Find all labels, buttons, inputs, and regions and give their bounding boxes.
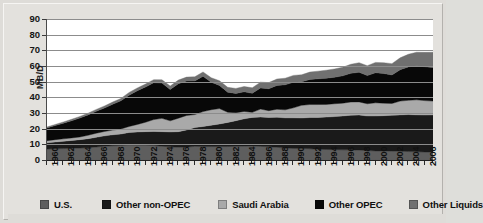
legend-label: Saudi Arabia — [232, 199, 289, 210]
x-axis-tick-label: 1974 — [165, 147, 175, 166]
x-axis-tick-mark — [79, 161, 80, 165]
x-axis-tick-mark — [46, 161, 47, 165]
y-axis-tick-label: 20 — [20, 124, 40, 133]
x-axis-tick-mark — [227, 161, 228, 165]
x-axis-tick-mark — [194, 161, 195, 165]
x-axis-tick-label: 1962 — [66, 147, 76, 166]
x-axis-tick-label: 1970 — [132, 147, 142, 166]
y-axis-tick-label: 70 — [20, 45, 40, 54]
x-axis-tick-mark — [358, 161, 359, 165]
x-axis-tick-mark — [375, 161, 376, 165]
x-axis-tick-mark — [112, 161, 113, 165]
gridline — [47, 144, 433, 145]
y-axis-tick-label: 80 — [20, 30, 40, 39]
x-axis-tick-label: 1968 — [116, 147, 126, 166]
legend-label: Other Liquids — [423, 199, 483, 210]
x-axis-tick-label: 1976 — [181, 147, 191, 166]
x-axis-tick-mark — [145, 161, 146, 165]
x-axis-tick-label: 1982 — [231, 147, 241, 166]
x-axis-tick-label: 1964 — [83, 147, 93, 166]
gridline — [47, 66, 433, 67]
x-axis-tick-mark — [309, 161, 310, 165]
legend-items: U.S.Other non-OPECSaudi ArabiaOther OPEC… — [12, 199, 438, 210]
gridline — [47, 19, 433, 20]
gridline — [47, 50, 433, 51]
x-axis-tick-mark — [177, 161, 178, 165]
y-axis-tick-label: 90 — [20, 14, 40, 23]
gridline — [47, 97, 433, 98]
chart-legend: U.S.Other non-OPECSaudi ArabiaOther OPEC… — [12, 194, 438, 214]
x-axis-tick-mark — [391, 161, 392, 165]
x-axis-tick-mark — [292, 161, 293, 165]
legend-color-swatch — [218, 200, 227, 209]
legend-label: U.S. — [54, 199, 72, 210]
x-axis-tick-label: 2002 — [395, 147, 405, 166]
legend-color-swatch — [102, 200, 111, 209]
x-axis-tick-mark — [342, 161, 343, 165]
x-axis-tick-mark — [260, 161, 261, 165]
legend-item[interactable]: Other Liquids — [409, 199, 483, 210]
x-axis-tick-label: 2006 — [428, 147, 438, 166]
gridline — [47, 113, 433, 114]
x-axis-tick-label: 2000 — [379, 147, 389, 166]
gridline — [47, 35, 433, 36]
legend-color-swatch — [409, 200, 418, 209]
x-axis-tick-label: 1988 — [280, 147, 290, 166]
legend-label: Other non-OPEC — [116, 199, 190, 210]
x-axis-tick-mark — [276, 161, 277, 165]
x-axis-tick-label: 1972 — [149, 147, 159, 166]
legend-color-swatch — [40, 200, 49, 209]
x-axis-tick-label: 1980 — [214, 147, 224, 166]
legend-item[interactable]: Other non-OPEC — [102, 199, 190, 210]
y-axis-tick-label: 40 — [20, 92, 40, 101]
x-axis-tick-mark — [128, 161, 129, 165]
legend-color-swatch — [315, 200, 324, 209]
legend-item[interactable]: U.S. — [40, 199, 72, 210]
stacked-area-plot — [46, 19, 433, 161]
x-axis-tick-mark — [325, 161, 326, 165]
x-axis-tick-label: 1990 — [296, 147, 306, 166]
y-axis-tick-label: 10 — [20, 139, 40, 148]
x-axis-tick-label: 1984 — [247, 147, 257, 166]
y-axis-tick-label: 60 — [20, 61, 40, 70]
x-axis-tick-label: 1978 — [198, 147, 208, 166]
x-axis-tick-label: 2004 — [411, 147, 421, 166]
x-axis-tick-label: 1998 — [362, 147, 372, 166]
x-axis-tick-label: 1992 — [313, 147, 323, 166]
chart-plot-region: MB/D 0102030405060708090 196019621964196… — [12, 10, 438, 192]
gridline — [47, 82, 433, 83]
legend-item[interactable]: Saudi Arabia — [218, 199, 289, 210]
x-axis-tick-label: 1996 — [346, 147, 356, 166]
gridline — [47, 129, 433, 130]
x-axis-tick-mark — [424, 161, 425, 165]
x-axis-tick-mark — [95, 161, 96, 165]
y-axis-tick-label: 50 — [20, 77, 40, 86]
y-axis-tick-label: 30 — [20, 108, 40, 117]
x-axis-tick-mark — [161, 161, 162, 165]
x-axis-tick-mark — [243, 161, 244, 165]
area-series-svg — [47, 19, 433, 160]
figure-bottom-strip — [8, 214, 446, 223]
y-axis-tick-label: 0 — [20, 155, 40, 164]
x-axis-tick-label: 1986 — [264, 147, 274, 166]
x-axis-tick-label: 1994 — [329, 147, 339, 166]
x-axis-tick-mark — [62, 161, 63, 165]
legend-label: Other OPEC — [329, 199, 383, 210]
x-axis-tick-mark — [210, 161, 211, 165]
legend-item[interactable]: Other OPEC — [315, 199, 383, 210]
chart-frame: MB/D 0102030405060708090 196019621964196… — [3, 3, 443, 220]
x-axis-tick-label: 1960 — [50, 147, 60, 166]
x-axis-tick-label: 1966 — [99, 147, 109, 166]
x-axis-tick-mark — [407, 161, 408, 165]
